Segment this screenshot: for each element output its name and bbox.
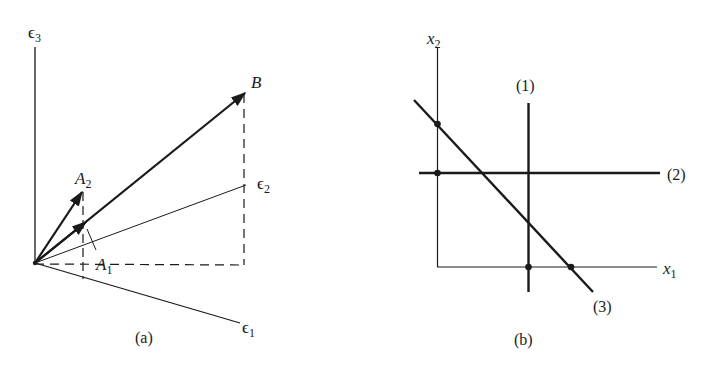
figure-canvas: ϵ3 ϵ2 ϵ1 B A2 A1 (a) x2 x1 (1) (2) (3) (… (0, 0, 716, 368)
intercept-dot (525, 264, 532, 271)
line-1-label: (1) (516, 77, 535, 95)
intercept-dot (568, 264, 575, 271)
vector-a1 (35, 222, 86, 263)
caption-b: (b) (514, 331, 533, 349)
figure-b: x2 x1 (1) (2) (3) (b) (414, 29, 686, 349)
intercept-dot (434, 121, 441, 128)
e1-label: ϵ1 (242, 318, 255, 340)
origin-dot (33, 261, 37, 265)
caption-a: (a) (135, 329, 153, 347)
b-label: B (251, 73, 262, 92)
a1-label: A1 (95, 255, 112, 277)
line-2-label: (2) (667, 166, 686, 184)
intercept-dot (434, 170, 441, 177)
e2-label: ϵ2 (257, 174, 270, 196)
b-projection-horizontal (35, 264, 244, 265)
figure-a: ϵ3 ϵ2 ϵ1 B A2 A1 (a) (28, 23, 270, 347)
e2-axis (35, 185, 246, 263)
x2-label: x2 (426, 29, 441, 51)
x1-label: x1 (662, 259, 677, 281)
constraint-line-3 (414, 100, 593, 292)
e1-axis (35, 263, 240, 323)
line-3-label: (3) (593, 298, 612, 316)
a1-pointer (87, 229, 96, 250)
e3-label: ϵ3 (28, 23, 41, 45)
a2-label: A2 (74, 169, 91, 191)
vector-a2 (35, 192, 82, 263)
